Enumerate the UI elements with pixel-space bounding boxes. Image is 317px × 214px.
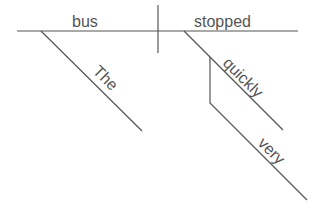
modifier-line-the: [41, 31, 142, 131]
subject-word: bus: [72, 13, 98, 30]
modifier-word-the: The: [90, 62, 122, 94]
modifier-line-very: [210, 57, 307, 200]
modifier-word-very: very: [255, 134, 288, 167]
modifier-line-quickly: [184, 31, 283, 130]
modifier-word-quickly: quickly: [220, 54, 267, 101]
predicate-word: stopped: [194, 13, 251, 30]
sentence-diagram: bus stopped The quickly very: [0, 0, 317, 214]
